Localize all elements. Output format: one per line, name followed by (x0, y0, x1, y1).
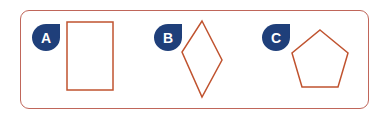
rectangle-shape (67, 22, 113, 90)
rhombus-shape (182, 21, 222, 97)
shapes-canvas (0, 0, 385, 117)
pentagon-shape (292, 30, 348, 87)
